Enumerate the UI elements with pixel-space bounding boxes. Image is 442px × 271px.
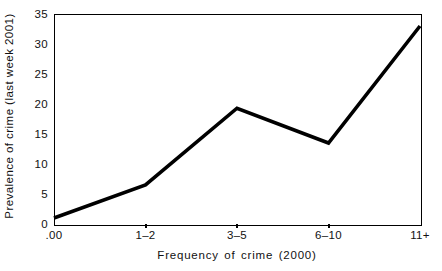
x-axis-tick-mark xyxy=(236,224,238,228)
x-axis-tick-mark xyxy=(328,224,330,228)
x-axis-tick-labels: .001–23–56–1011+ xyxy=(0,229,442,245)
x-axis-tick-label: 11+ xyxy=(410,229,430,241)
y-axis-tick-label: 25 xyxy=(18,68,48,80)
x-axis-title: Frequency of crime (2000) xyxy=(54,249,420,261)
y-axis-tick-label: 20 xyxy=(18,98,48,110)
x-axis-tick-mark xyxy=(145,224,147,228)
y-axis-tick-label: 30 xyxy=(18,38,48,50)
y-axis-tick-label: 15 xyxy=(18,128,48,140)
crime-prevalence-line xyxy=(54,26,420,218)
y-axis-title: Prevalence of crime (last week 2001) xyxy=(0,0,18,232)
chart-figure: Prevalence of crime (last week 2001) 051… xyxy=(0,0,442,271)
x-axis-tick-label: 3–5 xyxy=(227,229,247,241)
y-axis-tick-label: 10 xyxy=(18,158,48,170)
y-axis-tick-label: 35 xyxy=(18,8,48,20)
x-axis-tick-label: 1–2 xyxy=(135,229,155,241)
x-axis-tick-label: .00 xyxy=(46,229,63,241)
y-axis-tick-label: 5 xyxy=(18,188,48,200)
x-axis-tick-label: 6–10 xyxy=(315,229,342,241)
line-series-plot xyxy=(54,14,420,224)
